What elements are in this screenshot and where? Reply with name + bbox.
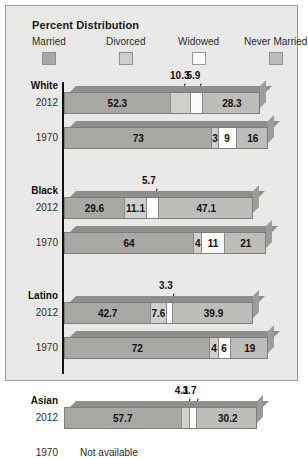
not-available-text: Not available: [80, 447, 138, 458]
bar-asian-2012: 57.74.13.730.2: [64, 407, 257, 429]
segment-divorced: 4.1: [182, 408, 190, 428]
segment-divorced: 10.3: [171, 93, 192, 113]
group-label-black: Black: [6, 185, 58, 196]
segment-widowed: 6: [219, 338, 231, 358]
segment-widowed: 3.3: [167, 303, 174, 323]
bar-side-face: [268, 325, 274, 353]
legend-label: Divorced: [106, 36, 145, 47]
legend-swatch-widowed: [192, 52, 206, 65]
segment-widowed: 5.9: [191, 93, 203, 113]
bar-side-face: [260, 80, 266, 108]
bar-segments: 733916: [64, 127, 268, 149]
legend-swatch-never-married: [269, 52, 283, 65]
segment-married: 29.6: [65, 198, 125, 218]
bar-side-face: [268, 115, 274, 143]
bar-white-2012: 52.310.35.928.3: [64, 92, 260, 114]
year-label-asian-2012: 2012: [6, 412, 58, 423]
year-label-asian-1970: 1970: [6, 447, 58, 458]
legend-item-widowed: Widowed: [178, 36, 219, 65]
chart-legend: MarriedDivorcedWidowedNever Married: [32, 36, 282, 74]
bar-segments: 724619: [64, 337, 268, 359]
callout-widowed: 5.7: [142, 175, 156, 186]
bar-segments: 57.74.13.730.2: [64, 407, 257, 429]
segment-divorced: 7.6: [151, 303, 166, 323]
bar-latino-2012: 42.77.63.339.9: [64, 302, 253, 324]
callout-widowed: 3.7: [183, 385, 197, 396]
year-label-black-2012: 2012: [6, 202, 58, 213]
year-label-white-2012: 2012: [6, 97, 58, 108]
segment-divorced: 4: [210, 338, 218, 358]
segment-married: 42.7: [65, 303, 151, 323]
legend-item-married: Married: [32, 36, 66, 65]
bar-side-face: [253, 290, 259, 318]
chart-frame: Percent Distribution MarriedDivorcedWido…: [5, 5, 298, 381]
segment-married: 52.3: [65, 93, 171, 113]
legend-item-never-married: Never Married: [244, 36, 307, 65]
bar-side-face: [253, 185, 259, 213]
segment-married: 64: [65, 233, 194, 253]
year-label-latino-1970: 1970: [6, 342, 58, 353]
legend-item-divorced: Divorced: [106, 36, 145, 65]
bar-latino-1970: 724619: [64, 337, 268, 359]
callout-widowed: 3.3: [159, 280, 173, 291]
bar-segments: 29.611.15.747.1: [64, 197, 253, 219]
bar-side-face: [266, 220, 272, 248]
segment-married: 72: [65, 338, 210, 358]
segment-never-married: 19: [231, 338, 268, 358]
bar-segments: 52.310.35.928.3: [64, 92, 260, 114]
legend-label: Married: [32, 36, 66, 47]
chart-title: Percent Distribution: [32, 19, 139, 31]
segment-never-married: 30.2: [197, 408, 257, 428]
segment-widowed: 5.7: [147, 198, 159, 218]
legend-label: Never Married: [244, 36, 307, 47]
year-label-black-1970: 1970: [6, 237, 58, 248]
bar-black-1970: 6441121: [64, 232, 266, 254]
bar-white-1970: 733916: [64, 127, 268, 149]
group-label-asian: Asian: [6, 395, 58, 406]
bar-segments: 6441121: [64, 232, 266, 254]
bar-black-2012: 29.611.15.747.1: [64, 197, 253, 219]
segment-married: 57.7: [65, 408, 182, 428]
segment-divorced: 11.1: [125, 198, 147, 218]
segment-never-married: 28.3: [203, 93, 259, 113]
segment-never-married: 21: [225, 233, 266, 253]
segment-never-married: 39.9: [173, 303, 253, 323]
segment-never-married: 16: [237, 128, 268, 148]
legend-label: Widowed: [178, 36, 219, 47]
legend-swatch-married: [42, 52, 56, 65]
value-axis-line: [62, 82, 64, 374]
segment-widowed: 9: [219, 128, 237, 148]
segment-widowed: 3.7: [190, 408, 197, 428]
group-label-white: White: [6, 80, 58, 91]
callout-widowed: 5.9: [186, 70, 200, 81]
chart-plot-area: White201210.35.952.310.35.928.3197073391…: [6, 78, 299, 380]
legend-swatch-divorced: [119, 52, 133, 65]
year-label-white-1970: 1970: [6, 132, 58, 143]
bar-side-face: [257, 395, 263, 423]
year-label-latino-2012: 2012: [6, 307, 58, 318]
segment-never-married: 47.1: [159, 198, 253, 218]
segment-married: 73: [65, 128, 212, 148]
segment-widowed: 11: [202, 233, 224, 253]
bar-segments: 42.77.63.339.9: [64, 302, 253, 324]
segment-divorced: 4: [194, 233, 202, 253]
group-label-latino: Latino: [6, 290, 58, 301]
